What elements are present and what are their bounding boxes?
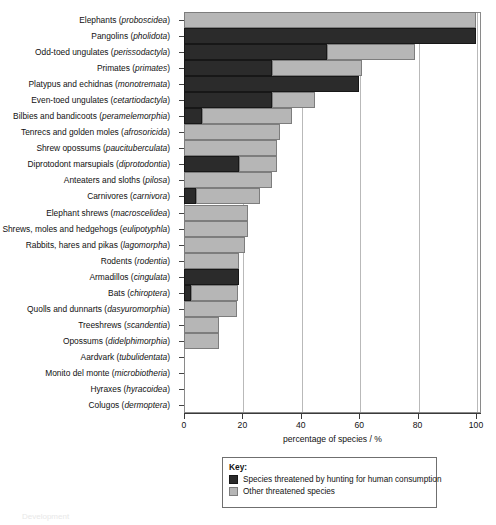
bar-segment-hunting: [184, 285, 191, 301]
y-axis-label: Platypus and echidnas (monotremata): [0, 79, 170, 89]
y-axis-labels: Elephants (proboscidea)Pangolins (pholid…: [0, 12, 178, 413]
bar-row: [184, 269, 239, 285]
y-label-latin-name: tubulidentata: [119, 352, 167, 362]
y-axis-label: Quolls and dunnarts (dasyuromorphia): [0, 304, 170, 314]
bar-segment-other: [184, 172, 272, 188]
y-label-latin-name: macroscelidea: [113, 208, 167, 218]
bar-row: [184, 285, 238, 301]
y-label-common-name: Shrews, moles and hedgehogs (: [2, 224, 122, 234]
footer-note: Development: [22, 512, 69, 521]
x-axis-tick-label: 0: [182, 420, 187, 430]
y-label-latin-name: chiroptera: [130, 288, 167, 298]
y-axis-tick: [179, 373, 184, 374]
bar-row: [184, 156, 277, 172]
y-label-latin-name: afrosoricida: [124, 127, 167, 137]
x-axis-tick: [301, 414, 302, 419]
y-axis-label: Rodents (rodentia): [0, 256, 170, 266]
y-label-paren: ): [167, 175, 170, 185]
bar-row: [184, 172, 272, 188]
y-axis-tick: [179, 100, 184, 101]
y-label-latin-name: dermoptera: [124, 400, 167, 410]
y-label-paren: ): [167, 111, 170, 121]
y-axis-tick: [179, 325, 184, 326]
bar-segment-hunting: [184, 60, 272, 76]
x-axis-tick: [418, 414, 419, 419]
y-label-paren: ): [167, 63, 170, 73]
y-label-latin-name: rodentia: [137, 256, 167, 266]
y-axis-label: Pangolins (pholidota): [0, 31, 170, 41]
y-label-paren: ): [167, 352, 170, 362]
y-axis-tick: [179, 36, 184, 37]
bar-segment-other: [327, 44, 415, 60]
y-axis-tick: [179, 293, 184, 294]
y-axis-tick: [179, 405, 184, 406]
bar-segment-other: [239, 156, 277, 172]
bar-row: [184, 333, 219, 349]
y-label-latin-name: eulipotyphla: [123, 224, 168, 234]
bar-segment-other: [184, 253, 239, 269]
y-label-common-name: Diprotodont marsupials (: [28, 159, 119, 169]
bar-row: [184, 237, 245, 253]
y-label-common-name: Quolls and dunnarts (: [27, 304, 107, 314]
y-axis-label: Aardvark (tubulidentata): [0, 352, 170, 362]
legend-entry-hunting: Species threatened by hunting for human …: [229, 475, 430, 484]
y-axis-tick: [179, 148, 184, 149]
legend-swatch-dark: [229, 475, 238, 484]
y-axis-label: Primates (primates): [0, 63, 170, 73]
bar-segment-hunting: [184, 156, 239, 172]
y-label-latin-name: didelphimorphia: [108, 336, 167, 346]
y-label-latin-name: carnivora: [133, 191, 167, 201]
y-label-latin-name: proboscidea: [122, 15, 168, 25]
x-axis-tick-label: 60: [354, 420, 364, 430]
x-axis-tick-label: 40: [296, 420, 306, 430]
y-axis-tick: [179, 132, 184, 133]
y-axis-label: Diprotodont marsupials (diprotodontia): [0, 159, 170, 169]
bar-segment-hunting: [184, 44, 327, 60]
y-label-paren: ): [167, 79, 170, 89]
legend-swatch-light: [229, 487, 238, 496]
y-axis-tick: [179, 341, 184, 342]
y-axis-tick: [179, 52, 184, 53]
bar-segment-other: [184, 12, 476, 28]
bar-row: [184, 221, 248, 237]
y-axis-label: Bilbies and bandicoots (peramelemorphia): [0, 111, 170, 121]
chart-container: Elephants (proboscidea)Pangolins (pholid…: [0, 0, 496, 525]
y-label-latin-name: cingulata: [134, 272, 168, 282]
x-axis-line: [184, 413, 481, 414]
y-label-common-name: Shrew opossums (: [36, 143, 105, 153]
y-label-paren: ): [167, 95, 170, 105]
y-label-common-name: Even-toed ungulates (: [31, 95, 113, 105]
y-label-paren: ): [167, 127, 170, 137]
y-label-common-name: Aardvark (: [81, 352, 120, 362]
x-axis-title: percentage of species / %: [184, 434, 481, 444]
x-axis-tick-label: 100: [469, 420, 483, 430]
legend-entry-other: Other threatened species: [229, 487, 430, 496]
legend-title: Key:: [229, 462, 430, 472]
y-label-paren: ): [167, 336, 170, 346]
y-label-paren: ): [167, 320, 170, 330]
bar-row: [184, 108, 292, 124]
y-label-common-name: Pangolins (: [91, 31, 133, 41]
y-label-paren: ): [167, 272, 170, 282]
y-label-latin-name: cetartiodactyla: [113, 95, 167, 105]
y-axis-label: Shrew opossums (paucituberculata): [0, 143, 170, 153]
y-axis-label: Rabbits, hares and pikas (lagomorpha): [0, 240, 170, 250]
bar-row: [184, 92, 315, 108]
y-label-paren: ): [167, 400, 170, 410]
y-axis-label: Colugos (dermoptera): [0, 400, 170, 410]
y-label-common-name: Carnivores (: [87, 191, 133, 201]
y-label-latin-name: lagomorpha: [123, 240, 167, 250]
bar-rows: [184, 12, 481, 413]
bar-segment-hunting: [184, 108, 202, 124]
x-axis-tick: [359, 414, 360, 419]
bar-segment-other: [184, 237, 245, 253]
y-axis-label: Hyraxes (hyracoidea): [0, 384, 170, 394]
bar-row: [184, 140, 277, 156]
y-label-paren: ): [167, 384, 170, 394]
y-label-latin-name: monotremata: [118, 79, 167, 89]
y-axis-label: Armadillos (cingulata): [0, 272, 170, 282]
y-label-paren: ): [167, 15, 170, 25]
y-label-latin-name: microbiotheria: [115, 368, 168, 378]
y-label-common-name: Bats (: [108, 288, 130, 298]
y-axis-tick: [179, 116, 184, 117]
